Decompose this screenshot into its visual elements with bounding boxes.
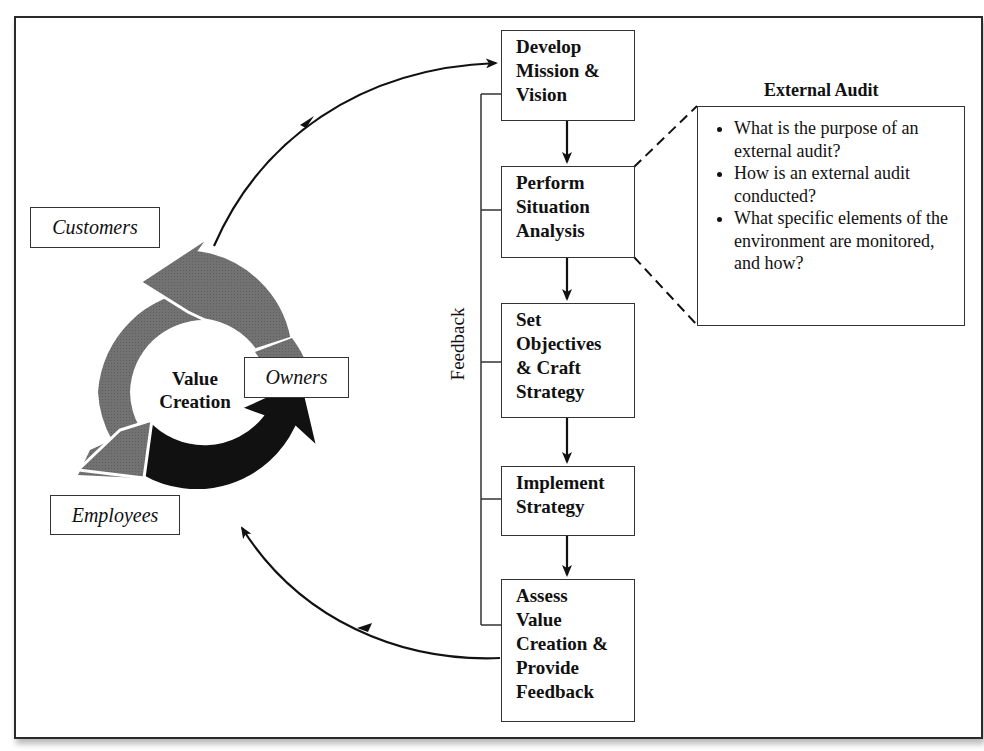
step-implement-strategy: Implement Strategy [501,466,635,536]
customers-text: Customers [52,216,138,239]
external-audit-box: What is the purpose of an external audit… [697,106,965,326]
step-text: Provide [516,656,634,680]
audit-callout-lines [634,106,697,325]
customers-label: Customers [30,207,160,248]
step-develop-mission: Develop Mission & Vision [501,30,635,121]
step-text: Develop [516,35,634,59]
step-text: Assess [516,584,634,608]
step-situation-analysis: Perform Situation Analysis [501,166,635,258]
arrow-to-cycle [242,528,500,658]
owners-label: Owners [244,357,349,398]
feedback-label: Feedback [447,304,469,384]
step-text: Strategy [516,495,634,519]
audit-question: What specific elements of the environmen… [734,207,954,275]
value-creation-label: Value Creation [140,367,250,413]
step-assess-value: Assess Value Creation & Provide Feedback [501,579,635,722]
step-text: Analysis [516,219,634,243]
step-text: Set [516,308,634,332]
feedback-line [481,94,501,625]
external-audit-title: External Audit [764,80,879,101]
step-text: Value [516,608,634,632]
step-text: Situation [516,195,634,219]
step-text: & Craft [516,356,634,380]
external-audit-list: What is the purpose of an external audit… [698,107,964,275]
step-text: Creation & [516,632,634,656]
value-creation-line: Creation [140,390,250,413]
arrow-to-develop [214,63,496,246]
audit-question: What is the purpose of an external audit… [734,117,954,162]
owners-text: Owners [265,366,327,389]
step-text: Strategy [516,380,634,404]
step-text: Implement [516,471,634,495]
step-text: Feedback [516,680,634,704]
step-text: Mission & [516,59,634,83]
step-text: Vision [516,83,634,107]
step-set-objectives: Set Objectives & Craft Strategy [501,303,635,418]
value-creation-line: Value [140,367,250,390]
employees-text: Employees [72,504,159,527]
employees-label: Employees [50,495,180,535]
audit-question: How is an external audit conducted? [734,162,954,207]
step-text: Objectives [516,332,634,356]
step-text: Perform [516,171,634,195]
